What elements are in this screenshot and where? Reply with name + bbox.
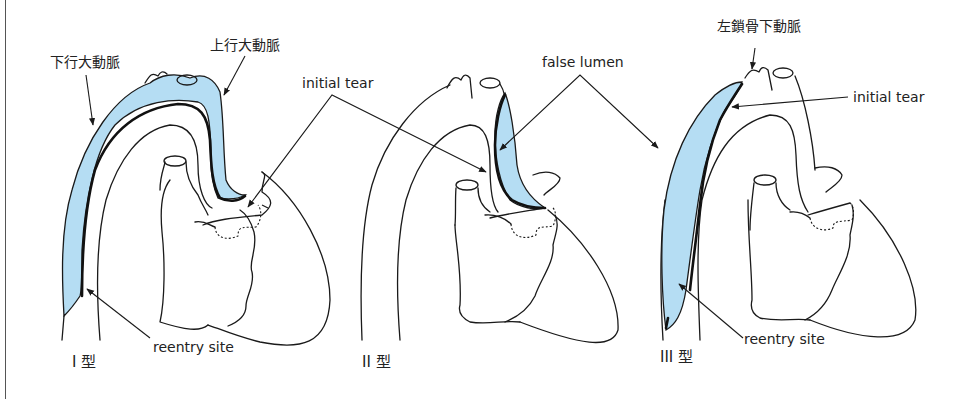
false-lumen-2 — [495, 93, 545, 209]
label-descending-aorta: 下行大動脈 — [50, 54, 120, 70]
label-left-subclavian-artery: 左鎖骨下動脈 — [717, 18, 801, 34]
aortic-dissection-diagram: 下行大動脈 上行大動脈 initial tear reentry site I … — [0, 0, 971, 399]
type-label-1: I 型 — [72, 353, 96, 371]
label-false-lumen: false lumen — [542, 54, 624, 70]
panel-type-1: 下行大動脈 上行大動脈 initial tear reentry site I … — [50, 37, 486, 371]
label-reentry-site-1: reentry site — [153, 339, 234, 355]
heart-1 — [160, 156, 330, 345]
false-lumen-3 — [662, 82, 742, 330]
heart-3 — [748, 167, 916, 337]
label-initial-tear-3: initial tear — [853, 89, 925, 105]
type-label-2: II 型 — [362, 353, 391, 371]
heart-2 — [455, 172, 618, 342]
type-label-3: III 型 — [660, 348, 693, 366]
label-initial-tear-shared: initial tear — [302, 75, 374, 91]
panel-type-2: false lumen II 型 — [361, 54, 658, 371]
label-ascending-aorta: 上行大動脈 — [210, 37, 280, 53]
panel-type-3: 左鎖骨下動脈 initial tear reentry site III 型 — [660, 18, 925, 366]
label-reentry-site-3: reentry site — [744, 331, 825, 347]
